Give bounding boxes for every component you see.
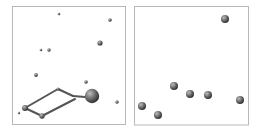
sphere-node [170, 82, 178, 90]
bond-line [42, 99, 75, 116]
bond-line [25, 89, 58, 108]
sphere-node [34, 73, 38, 77]
sphere-node [154, 111, 162, 119]
sphere-node [186, 90, 194, 98]
sphere-node [108, 18, 112, 22]
sphere-node [56, 87, 59, 90]
sphere-node [221, 15, 229, 23]
panel-right-scatter [135, 7, 249, 126]
sphere-node [138, 102, 146, 110]
sphere-node [40, 49, 43, 52]
diagram-canvas [0, 0, 261, 132]
sphere-node [18, 112, 20, 114]
sphere-node [115, 100, 118, 103]
sphere-node [47, 48, 50, 51]
bond-line [73, 96, 85, 97]
sphere-node [39, 113, 44, 118]
sphere-node [204, 91, 212, 99]
panel-frame [135, 7, 249, 126]
sphere-node [85, 89, 99, 103]
sphere-node [97, 40, 102, 45]
sphere-node [58, 13, 61, 16]
panel-frame [13, 7, 126, 125]
bond-line [58, 89, 73, 96]
sphere-diagram [0, 0, 261, 132]
sphere-node [84, 80, 88, 84]
panel-left-network [13, 7, 126, 125]
sphere-node [236, 96, 244, 104]
sphere-node [22, 105, 28, 111]
